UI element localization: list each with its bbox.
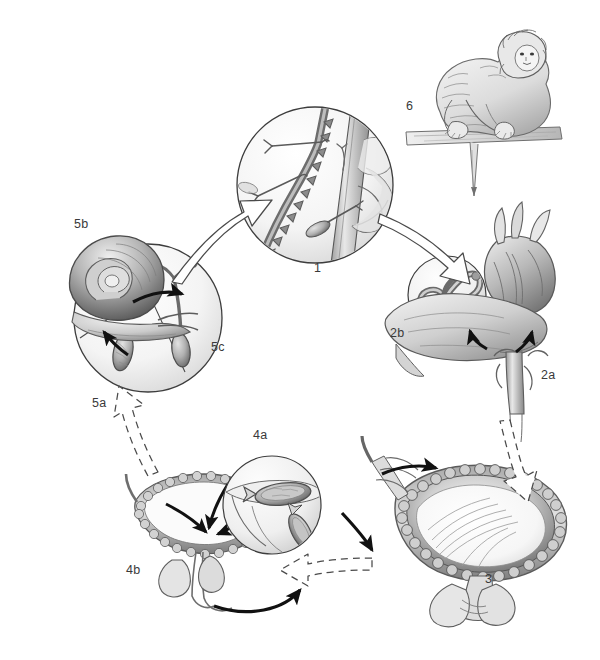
stage-1-illustration	[237, 100, 401, 276]
branch	[406, 127, 562, 196]
stage-label-5c: 5c	[211, 340, 225, 354]
stage-4a-illustration	[223, 456, 324, 554]
stage-label-1: 1	[314, 261, 321, 275]
stage-label-3: 3	[485, 572, 492, 586]
stage-label-5a: 5a	[92, 396, 107, 410]
life-cycle-diagram: 1 2b 2a 3 4a 4b 5a 5b 5c 6	[0, 0, 600, 660]
stage-label-2a: 2a	[541, 368, 556, 382]
monkey	[436, 30, 550, 139]
stage-label-5b: 5b	[74, 217, 89, 231]
illustration-canvas	[0, 0, 600, 660]
stage-label-6: 6	[406, 99, 413, 113]
stage-6-illustration	[406, 30, 562, 196]
stage-3-illustration	[342, 436, 566, 627]
stage-label-2b: 2b	[390, 326, 405, 340]
stage-label-4b: 4b	[126, 563, 141, 577]
arrow-stage-3-to-stage-4b	[280, 554, 372, 586]
arrow-snail-circle-to-stage-1	[172, 200, 272, 284]
arrow-stage-4b-to-stage-5a	[114, 386, 158, 476]
stage-label-4a: 4a	[253, 428, 268, 442]
